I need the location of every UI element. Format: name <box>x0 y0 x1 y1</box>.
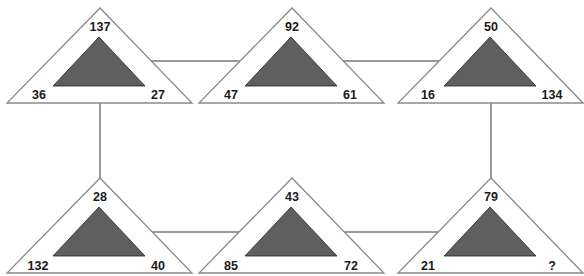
triangle-2: 92 47 61 <box>199 8 384 103</box>
right-number: 61 <box>343 88 357 102</box>
left-number: 47 <box>224 88 238 102</box>
top-number: 79 <box>484 190 498 204</box>
triangle-1: 137 36 27 <box>7 8 192 103</box>
left-number: 16 <box>421 88 435 102</box>
triangle-6: 79 21 ? <box>398 178 583 273</box>
top-number: 28 <box>93 190 107 204</box>
left-number: 85 <box>224 259 238 273</box>
triangle-4: 28 132 40 <box>7 178 192 273</box>
missing-number: ? <box>548 259 556 273</box>
top-number: 50 <box>484 20 498 34</box>
right-number: 27 <box>151 88 165 102</box>
right-number: 40 <box>151 259 165 273</box>
left-number: 36 <box>32 88 46 102</box>
top-number: 137 <box>90 20 111 34</box>
top-number: 43 <box>285 190 299 204</box>
left-number: 21 <box>421 259 435 273</box>
right-number: 134 <box>542 88 563 102</box>
right-number: 72 <box>344 259 358 273</box>
top-number: 92 <box>285 20 299 34</box>
triangle-3: 50 16 134 <box>398 8 583 103</box>
triangle-5: 43 85 72 <box>199 178 384 273</box>
triangle-puzzle-diagram: 137 36 27 92 47 61 50 16 134 28 132 40 4… <box>0 0 584 276</box>
left-number: 132 <box>28 259 49 273</box>
